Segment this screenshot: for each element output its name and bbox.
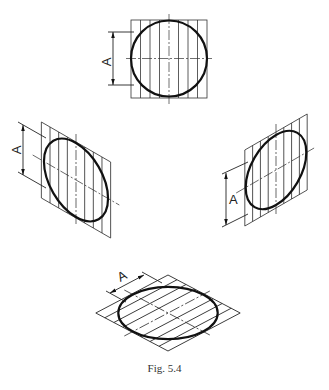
dimension-label-a: A — [115, 267, 130, 284]
right-dimension-a: A — [222, 162, 248, 227]
figure-caption: Fig. 5.4 — [0, 362, 329, 374]
isometric-circles-diagram: A A — [0, 0, 329, 390]
bottom-view: A — [81, 267, 256, 359]
left-view: A — [9, 109, 119, 251]
dimension-label-a: A — [99, 57, 114, 66]
dimension-label-a: A — [9, 145, 24, 154]
right-view: A — [222, 101, 316, 239]
dimension-label-a: A — [229, 192, 238, 207]
top-view: A — [99, 14, 212, 104]
left-dimension-a: A — [9, 122, 46, 188]
bottom-dimension-a: A — [106, 267, 162, 302]
